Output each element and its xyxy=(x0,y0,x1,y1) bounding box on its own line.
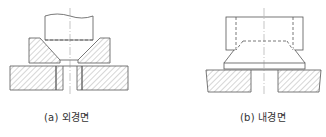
caption-inner-surface: (b) 내경면 xyxy=(240,109,286,124)
base-right-a xyxy=(82,66,128,90)
caption-outer-surface: (a) 외경면 xyxy=(44,109,90,124)
die-left xyxy=(29,38,60,63)
figure-b-inner-surface xyxy=(206,8,321,96)
base-left-a xyxy=(10,66,56,90)
base-left-b xyxy=(206,70,251,92)
base-right-b xyxy=(278,70,321,92)
punch xyxy=(45,14,93,40)
die-right xyxy=(78,38,110,63)
figure-a-outer-surface xyxy=(10,8,128,96)
